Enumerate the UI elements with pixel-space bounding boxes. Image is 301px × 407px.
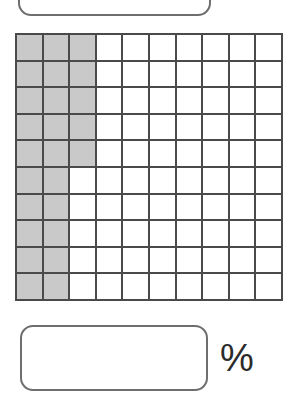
answer-input[interactable] <box>20 325 208 391</box>
grid-cell[interactable] <box>230 141 257 168</box>
grid-cell[interactable] <box>150 248 177 275</box>
grid-cell[interactable] <box>44 195 71 222</box>
grid-cell[interactable] <box>177 88 204 115</box>
grid-cell[interactable] <box>230 168 257 195</box>
grid-cell[interactable] <box>44 221 71 248</box>
grid-cell[interactable] <box>70 195 97 222</box>
grid-cell[interactable] <box>230 88 257 115</box>
grid-cell[interactable] <box>230 195 257 222</box>
grid-cell[interactable] <box>203 62 230 89</box>
grid-cell[interactable] <box>70 274 97 301</box>
grid-cell[interactable] <box>177 168 204 195</box>
grid-cell[interactable] <box>150 62 177 89</box>
grid-cell[interactable] <box>70 221 97 248</box>
grid-cell[interactable] <box>97 35 124 62</box>
grid-cell[interactable] <box>123 35 150 62</box>
percent-grid[interactable] <box>15 33 283 301</box>
top-answer-box[interactable] <box>18 0 211 16</box>
grid-cell[interactable] <box>17 62 44 89</box>
grid-cell[interactable] <box>97 248 124 275</box>
grid-cell[interactable] <box>123 248 150 275</box>
grid-cell[interactable] <box>203 248 230 275</box>
grid-cell[interactable] <box>203 141 230 168</box>
grid-cell[interactable] <box>230 221 257 248</box>
grid-cell[interactable] <box>123 168 150 195</box>
grid-cell[interactable] <box>177 115 204 142</box>
grid-cell[interactable] <box>150 221 177 248</box>
grid-cell[interactable] <box>17 195 44 222</box>
grid-cell[interactable] <box>230 62 257 89</box>
grid-cell[interactable] <box>17 35 44 62</box>
grid-cell[interactable] <box>17 88 44 115</box>
grid-cell[interactable] <box>17 274 44 301</box>
grid-cell[interactable] <box>123 195 150 222</box>
grid-cell[interactable] <box>230 248 257 275</box>
grid-cell[interactable] <box>203 35 230 62</box>
grid-cell[interactable] <box>97 168 124 195</box>
grid-cell[interactable] <box>17 115 44 142</box>
grid-cell[interactable] <box>123 115 150 142</box>
grid-cell[interactable] <box>97 115 124 142</box>
grid-cell[interactable] <box>150 195 177 222</box>
grid-cell[interactable] <box>97 221 124 248</box>
grid-cell[interactable] <box>70 248 97 275</box>
grid-cell[interactable] <box>70 168 97 195</box>
grid-cell[interactable] <box>203 221 230 248</box>
grid-cell[interactable] <box>256 141 283 168</box>
grid-cell[interactable] <box>150 35 177 62</box>
grid-cell[interactable] <box>150 141 177 168</box>
grid-cell[interactable] <box>150 88 177 115</box>
grid-cell[interactable] <box>256 62 283 89</box>
grid-cell[interactable] <box>70 62 97 89</box>
grid-cell[interactable] <box>203 115 230 142</box>
grid-cell[interactable] <box>230 115 257 142</box>
grid-cell[interactable] <box>97 274 124 301</box>
grid-cell[interactable] <box>44 35 71 62</box>
grid-cell[interactable] <box>150 274 177 301</box>
grid-cell[interactable] <box>256 168 283 195</box>
grid-cell[interactable] <box>177 62 204 89</box>
grid-cell[interactable] <box>256 195 283 222</box>
grid-cell[interactable] <box>256 274 283 301</box>
grid-cell[interactable] <box>70 141 97 168</box>
grid-cell[interactable] <box>256 221 283 248</box>
grid-cell[interactable] <box>123 274 150 301</box>
grid-cell[interactable] <box>177 35 204 62</box>
grid-cell[interactable] <box>17 248 44 275</box>
grid-cell[interactable] <box>70 88 97 115</box>
grid-cell[interactable] <box>97 195 124 222</box>
grid-cell[interactable] <box>203 168 230 195</box>
grid-cell[interactable] <box>150 115 177 142</box>
grid-cell[interactable] <box>17 141 44 168</box>
grid-cell[interactable] <box>177 195 204 222</box>
grid-cell[interactable] <box>44 274 71 301</box>
grid-cell[interactable] <box>177 248 204 275</box>
grid-cell[interactable] <box>256 35 283 62</box>
grid-cell[interactable] <box>177 221 204 248</box>
grid-cell[interactable] <box>256 88 283 115</box>
grid-cell[interactable] <box>44 168 71 195</box>
grid-cell[interactable] <box>44 62 71 89</box>
grid-cell[interactable] <box>70 35 97 62</box>
grid-cell[interactable] <box>97 141 124 168</box>
grid-cell[interactable] <box>123 221 150 248</box>
grid-cell[interactable] <box>256 248 283 275</box>
grid-cell[interactable] <box>70 115 97 142</box>
grid-cell[interactable] <box>44 88 71 115</box>
grid-cell[interactable] <box>123 141 150 168</box>
grid-cell[interactable] <box>230 35 257 62</box>
grid-cell[interactable] <box>230 274 257 301</box>
grid-cell[interactable] <box>203 195 230 222</box>
grid-cell[interactable] <box>123 62 150 89</box>
grid-cell[interactable] <box>177 274 204 301</box>
grid-cell[interactable] <box>97 88 124 115</box>
grid-cell[interactable] <box>44 115 71 142</box>
grid-cell[interactable] <box>17 221 44 248</box>
grid-cell[interactable] <box>97 62 124 89</box>
grid-cell[interactable] <box>123 88 150 115</box>
grid-cell[interactable] <box>17 168 44 195</box>
grid-cell[interactable] <box>256 115 283 142</box>
grid-cell[interactable] <box>44 141 71 168</box>
grid-cell[interactable] <box>44 248 71 275</box>
grid-cell[interactable] <box>177 141 204 168</box>
